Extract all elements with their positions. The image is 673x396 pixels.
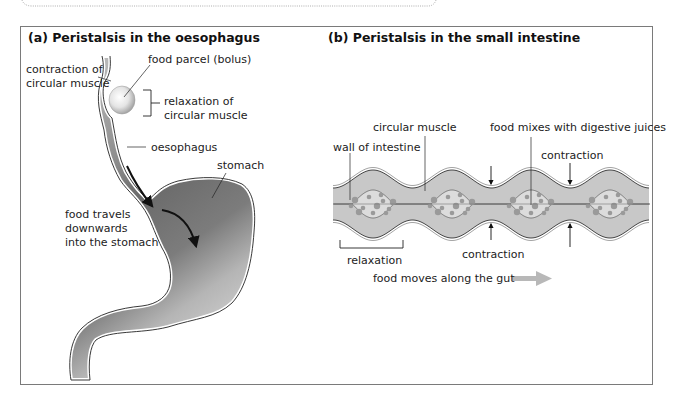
food-particle bbox=[463, 211, 468, 216]
label-wall: wall of intestine bbox=[333, 141, 421, 154]
food-particle bbox=[458, 193, 463, 198]
food-particle bbox=[381, 199, 386, 204]
food-particle bbox=[387, 207, 392, 212]
food-particle bbox=[379, 193, 384, 198]
label-travel-3: into the stomach bbox=[65, 236, 158, 249]
food-particle bbox=[539, 199, 544, 204]
food-particle bbox=[507, 204, 512, 209]
food-particle bbox=[589, 197, 595, 203]
food-particle bbox=[529, 211, 534, 216]
label-direction: food moves along the gut bbox=[373, 272, 515, 285]
food-particle bbox=[384, 211, 389, 216]
label-contraction-1: contraction of bbox=[26, 63, 104, 76]
food-particle bbox=[356, 209, 362, 215]
panel-b-title: (b) Peristalsis in the small intestine bbox=[328, 30, 580, 45]
food-particle bbox=[616, 193, 621, 198]
label-contraction-top: contraction bbox=[541, 149, 603, 162]
food-particle bbox=[446, 195, 451, 200]
food-particle bbox=[428, 204, 433, 209]
label-contraction-2: circular muscle bbox=[26, 77, 110, 90]
food-particle bbox=[593, 209, 599, 215]
food-particle bbox=[352, 197, 358, 203]
food-particle bbox=[608, 211, 613, 216]
food-particle bbox=[545, 207, 550, 212]
peristalsis-diagram: (a) Peristalsis in the oesophagus contra… bbox=[0, 0, 673, 396]
label-relaxation: relaxation bbox=[347, 254, 402, 267]
food-particle bbox=[361, 206, 366, 211]
food-particle bbox=[440, 206, 445, 211]
bolus bbox=[109, 86, 135, 114]
dotted-box-edge bbox=[22, 0, 436, 6]
food-particle bbox=[435, 209, 441, 215]
label-relaxation-2: circular muscle bbox=[164, 109, 248, 122]
label-oesophagus: oesophagus bbox=[151, 141, 218, 154]
food-particle bbox=[621, 211, 626, 216]
label-contraction-bottom: contraction bbox=[462, 248, 524, 261]
food-particle bbox=[537, 193, 542, 198]
food-particle bbox=[519, 206, 524, 211]
label-food-mixes: food mixes with digestive juices bbox=[490, 121, 666, 134]
food-particle bbox=[431, 197, 437, 203]
food-particle bbox=[604, 195, 609, 200]
label-travel-2: downwards bbox=[65, 222, 128, 235]
label-relaxation-1: relaxation of bbox=[164, 95, 234, 108]
food-particle bbox=[542, 211, 547, 216]
label-stomach: stomach bbox=[217, 159, 264, 172]
food-particle bbox=[525, 195, 530, 200]
food-particle bbox=[514, 209, 520, 215]
food-particle bbox=[510, 197, 516, 203]
label-circular-muscle: circular muscle bbox=[373, 121, 457, 134]
food-particle bbox=[367, 195, 372, 200]
label-travel-1: food travels bbox=[65, 208, 131, 221]
food-particle bbox=[618, 199, 623, 204]
food-particle bbox=[586, 204, 591, 209]
food-particle bbox=[624, 207, 629, 212]
food-particle bbox=[598, 206, 603, 211]
food-particle bbox=[371, 211, 376, 216]
food-particle bbox=[450, 211, 455, 216]
food-particle bbox=[460, 199, 465, 204]
label-bolus: food parcel (bolus) bbox=[148, 53, 251, 66]
food-particle bbox=[349, 204, 354, 209]
food-particle bbox=[466, 207, 471, 212]
panel-a-title: (a) Peristalsis in the oesophagus bbox=[28, 30, 260, 45]
